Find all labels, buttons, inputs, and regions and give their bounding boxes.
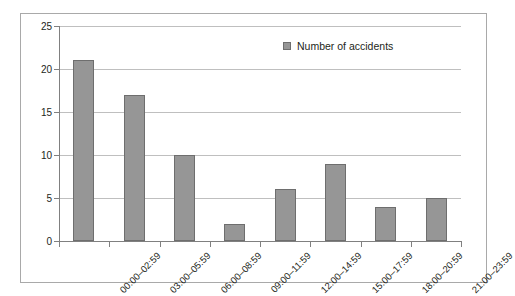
x-tick-mark-2: [160, 241, 161, 247]
y-tick-mark-10: [54, 155, 59, 156]
bar-18-00-20-59: [375, 207, 396, 241]
x-axis-label-2: 06:00–08:59: [218, 250, 263, 295]
x-tick-mark-4: [260, 241, 261, 247]
gridline-25: [59, 26, 461, 27]
gridline-5: [59, 198, 461, 199]
gridline-20: [59, 69, 461, 70]
y-tick-mark-15: [54, 112, 59, 113]
bar-03-00-05-59: [124, 95, 145, 241]
y-tick-mark-20: [54, 69, 59, 70]
bar-06-00-08-59: [174, 155, 195, 241]
y-tick-label-5: 5: [46, 193, 52, 204]
x-tick-mark-3: [210, 241, 211, 247]
bar-12-00-14-59: [275, 189, 296, 241]
gridline-15: [59, 112, 461, 113]
y-tick-label-0: 0: [46, 236, 52, 247]
gridline-10: [59, 155, 461, 156]
x-axis-label-5: 15:00–17:59: [369, 250, 414, 295]
plot-area: 25 20 15 10 5 0 00:00–02:59 03:00–05:59 …: [59, 26, 461, 241]
x-tick-mark-7: [411, 241, 412, 247]
x-tick-mark-5: [310, 241, 311, 247]
y-tick-label-20: 20: [41, 64, 52, 75]
x-axis-label-1: 03:00–05:59: [167, 250, 212, 295]
y-tick-label-15: 15: [41, 107, 52, 118]
y-tick-label-10: 10: [41, 150, 52, 161]
y-axis: [59, 26, 60, 241]
y-tick-label-25: 25: [41, 21, 52, 32]
y-tick-mark-25: [54, 26, 59, 27]
bar-21-00-23-59: [426, 198, 447, 241]
x-tick-mark-6: [361, 241, 362, 247]
x-axis-label-3: 09:00–11:59: [268, 250, 313, 295]
x-axis-label-7: 21:00–23:59: [469, 250, 514, 295]
x-axis-label-0: 00:00–02:59: [117, 250, 162, 295]
chart-figure: Number of accidents 25 20 15 10 5 0: [20, 13, 487, 283]
x-axis-label-4: 12:00–14:59: [318, 250, 363, 295]
x-tick-mark-0: [59, 241, 60, 247]
x-tick-mark-1: [109, 241, 110, 247]
x-tick-mark-8: [461, 241, 462, 247]
bar-00-00-02-59: [73, 60, 94, 241]
bar-15-00-17-59: [325, 164, 346, 241]
y-tick-mark-5: [54, 198, 59, 199]
bar-09-00-11-59: [224, 224, 245, 241]
x-axis-label-6: 18:00–20:59: [419, 250, 464, 295]
